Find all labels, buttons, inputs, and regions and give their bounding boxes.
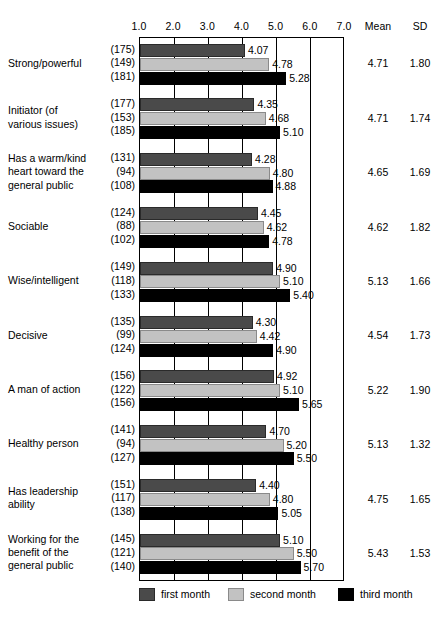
bar-third-month (140, 344, 273, 357)
legend-item-second-month[interactable]: second month (228, 586, 316, 602)
sample-size-value: (175) (97, 43, 135, 57)
sample-size-column: (141)(94)(127) (97, 423, 135, 464)
mean-value: 5.13 (356, 275, 400, 287)
sd-value: 1.65 (398, 493, 442, 505)
bar-group: 4.404.805.05 (140, 473, 343, 527)
sample-size-value: (135) (97, 315, 135, 329)
bar-group: 4.454.624.78 (140, 201, 343, 255)
sample-size-value: (141) (97, 423, 135, 437)
bar-value-label: 5.05 (281, 507, 301, 520)
bar-second-month (140, 439, 284, 452)
bar-third-month (140, 235, 269, 248)
bar-value-label: 4.80 (273, 167, 293, 180)
bar-value-label: 5.50 (297, 547, 317, 560)
sample-size-column: (149)(118)(133) (97, 260, 135, 301)
sd-value: 1.53 (398, 547, 442, 559)
x-axis-tick-5.0: 5.0 (261, 20, 291, 32)
bar-third-month (140, 398, 299, 411)
bar-second-month (140, 547, 294, 560)
bar-second-month (140, 167, 270, 180)
sd-value: 1.80 (398, 57, 442, 69)
sd-value: 1.32 (398, 438, 442, 450)
bar-group: 4.905.105.40 (140, 256, 343, 310)
legend-label: third month (360, 588, 413, 600)
x-axis-tick-4.0: 4.0 (227, 20, 257, 32)
sample-size-column: (145)(121)(140) (97, 532, 135, 573)
bar-value-label: 4.90 (276, 262, 296, 275)
bar-group: 4.925.105.65 (140, 364, 343, 418)
bar-value-label: 4.07 (248, 44, 268, 57)
x-axis-tick-6.0: 6.0 (295, 20, 325, 32)
sample-size-value: (133) (97, 288, 135, 302)
bar-group: 4.354.685.10 (140, 92, 343, 146)
sample-size-value: (149) (97, 56, 135, 70)
sample-size-value: (181) (97, 70, 135, 84)
sample-size-value: (140) (97, 560, 135, 574)
sample-size-value: (94) (97, 165, 135, 179)
bar-value-label: 5.10 (283, 275, 303, 288)
bar-third-month (140, 180, 273, 193)
sample-size-value: (102) (97, 233, 135, 247)
bar-value-label: 5.40 (293, 289, 313, 302)
bar-second-month (140, 493, 270, 506)
sample-size-value: (156) (97, 369, 135, 383)
bar-value-label: 4.88 (276, 180, 296, 193)
sample-size-value: (131) (97, 151, 135, 165)
sd-value: 1.82 (398, 221, 442, 233)
bar-first-month (140, 534, 280, 547)
sample-size-value: (121) (97, 546, 135, 560)
bar-third-month (140, 561, 301, 574)
sample-size-column: (131)(94)(108) (97, 151, 135, 192)
bar-third-month (140, 72, 286, 85)
bar-value-label: 4.40 (259, 479, 279, 492)
plot-area: 4.074.785.284.354.685.104.284.804.884.45… (139, 37, 344, 581)
bar-second-month (140, 275, 280, 288)
sample-size-value: (122) (97, 383, 135, 397)
bar-value-label: 4.68 (269, 112, 289, 125)
horizontal-bar-chart: 1.02.03.04.05.06.07.0 Mean SD 4.074.785.… (0, 0, 447, 621)
bar-value-label: 4.42 (260, 330, 280, 343)
bar-first-month (140, 98, 254, 111)
sample-size-column: (124)(88)(102) (97, 206, 135, 247)
bar-value-label: 4.92 (277, 370, 297, 383)
sample-size-value: (127) (97, 451, 135, 465)
legend-item-third-month[interactable]: third month (338, 586, 413, 602)
mean-value: 4.71 (356, 112, 400, 124)
x-axis-tick-2.0: 2.0 (158, 20, 188, 32)
legend-swatch-icon (228, 588, 244, 601)
sample-size-value: (88) (97, 219, 135, 233)
sample-size-value: (94) (97, 437, 135, 451)
chart-legend: first monthsecond monththird month (139, 586, 439, 604)
x-axis-tick-7.0: 7.0 (329, 20, 359, 32)
bar-value-label: 5.70 (304, 561, 324, 574)
bar-group: 4.074.785.28 (140, 38, 343, 92)
bar-first-month (140, 153, 252, 166)
mean-value: 4.75 (356, 493, 400, 505)
x-axis-tick-1.0: 1.0 (124, 20, 154, 32)
sd-value: 1.74 (398, 112, 442, 124)
sd-value: 1.90 (398, 384, 442, 396)
sample-size-column: (175)(149)(181) (97, 43, 135, 84)
sample-size-value: (117) (97, 491, 135, 505)
mean-value: 5.13 (356, 438, 400, 450)
bar-value-label: 4.78 (272, 58, 292, 71)
bar-value-label: 4.70 (269, 425, 289, 438)
bar-first-month (140, 479, 256, 492)
legend-item-first-month[interactable]: first month (139, 586, 210, 602)
sample-size-value: (124) (97, 342, 135, 356)
mean-value: 5.43 (356, 547, 400, 559)
bar-value-label: 5.20 (287, 439, 307, 452)
bar-first-month (140, 44, 245, 57)
sample-size-value: (108) (97, 179, 135, 193)
sample-size-value: (151) (97, 478, 135, 492)
legend-swatch-icon (139, 588, 155, 601)
bar-value-label: 4.80 (273, 493, 293, 506)
sample-size-value: (138) (97, 505, 135, 519)
sample-size-value: (185) (97, 124, 135, 138)
column-header-sd: SD (398, 20, 442, 32)
bar-first-month (140, 262, 273, 275)
bar-value-label: 5.50 (297, 452, 317, 465)
bar-third-month (140, 126, 280, 139)
bar-value-label: 4.28 (255, 153, 275, 166)
bar-second-month (140, 384, 280, 397)
